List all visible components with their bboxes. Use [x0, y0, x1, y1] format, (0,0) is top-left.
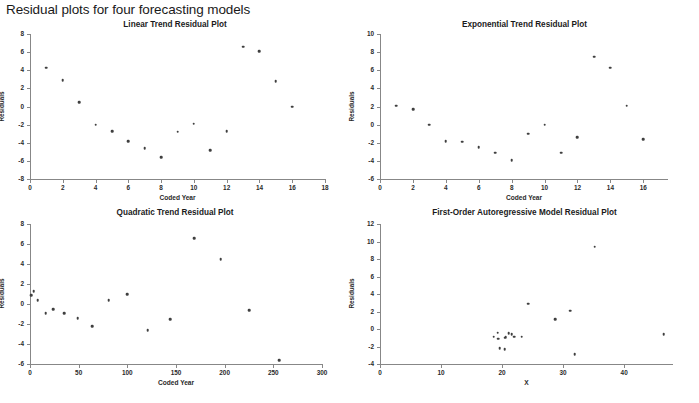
data-point [45, 66, 48, 69]
x-tick-quadratic-trend [225, 364, 226, 368]
data-point [497, 331, 500, 334]
y-tick-exponential-trend [377, 161, 381, 162]
data-point [94, 123, 97, 126]
data-point [143, 147, 146, 150]
data-point [520, 336, 523, 339]
y-tick-autoregressive [377, 242, 381, 243]
y-axis-line-autoregressive [380, 224, 381, 364]
x-tick-autoregressive [624, 364, 625, 368]
data-point [78, 101, 81, 104]
y-tick-linear-trend [27, 88, 31, 89]
x-tick-label-quadratic-trend: 50 [67, 369, 91, 376]
data-point [503, 348, 506, 351]
x-tick-label-autoregressive: 20 [490, 369, 514, 376]
x-axis-line-exponential-trend [380, 179, 668, 180]
x-tick-label-linear-trend: 18 [313, 184, 337, 191]
x-tick-exponential-trend [610, 179, 611, 183]
y-tick-autoregressive [377, 259, 381, 260]
data-point [91, 325, 94, 328]
x-tick-label-linear-trend: 8 [149, 184, 173, 191]
data-point [258, 50, 261, 53]
x-tick-quadratic-trend [273, 364, 274, 368]
x-tick-label-quadratic-trend: 0 [18, 369, 42, 376]
x-axis-line-autoregressive [380, 364, 673, 365]
y-tick-linear-trend [27, 143, 31, 144]
data-point [573, 353, 576, 356]
x-tick-linear-trend [128, 179, 129, 183]
data-point [663, 333, 666, 336]
x-tick-label-exponential-trend: 10 [533, 184, 557, 191]
x-tick-quadratic-trend [176, 364, 177, 368]
data-point [242, 45, 245, 48]
scatter-plot-quadratic-trend: 050100150200250300-6-4-202468Coded YearR… [30, 224, 322, 364]
y-tick-label-linear-trend: 8 [6, 30, 24, 37]
x-tick-autoregressive [441, 364, 442, 368]
x-tick-exponential-trend [380, 179, 381, 183]
data-point [126, 293, 129, 296]
x-tick-exponential-trend [643, 179, 644, 183]
y-tick-autoregressive [377, 277, 381, 278]
x-tick-exponential-trend [446, 179, 447, 183]
data-point [477, 146, 480, 149]
y-tick-quadratic-trend [27, 364, 31, 365]
y-tick-label-linear-trend: 6 [6, 48, 24, 55]
data-point [76, 317, 79, 320]
data-point [527, 132, 530, 135]
data-point [176, 131, 179, 134]
data-point [169, 318, 172, 321]
y-tick-label-quadratic-trend: 0 [6, 300, 24, 307]
y-tick-label-autoregressive: 0 [356, 325, 374, 332]
data-point [127, 140, 130, 143]
data-point [543, 123, 546, 126]
data-point [494, 151, 497, 154]
x-tick-quadratic-trend [127, 364, 128, 368]
y-tick-label-linear-trend: 4 [6, 66, 24, 73]
y-tick-quadratic-trend [27, 224, 31, 225]
y-tick-linear-trend [27, 107, 31, 108]
y-tick-label-exponential-trend: 8 [356, 48, 374, 55]
y-tick-label-exponential-trend: -2 [356, 139, 374, 146]
data-point [642, 138, 645, 141]
data-point [609, 66, 612, 69]
data-point [513, 336, 516, 339]
y-axis-label-quadratic-trend: Residuals [0, 264, 5, 324]
y-tick-linear-trend [27, 179, 31, 180]
x-tick-label-linear-trend: 14 [247, 184, 271, 191]
y-tick-exponential-trend [377, 88, 381, 89]
x-tick-linear-trend [259, 179, 260, 183]
y-tick-label-linear-trend: -8 [6, 175, 24, 182]
y-axis-label-autoregressive: Residuals [348, 264, 355, 324]
data-point [146, 329, 149, 332]
y-tick-label-quadratic-trend: -6 [6, 360, 24, 367]
y-tick-label-quadratic-trend: 8 [6, 220, 24, 227]
x-tick-autoregressive [502, 364, 503, 368]
y-tick-linear-trend [27, 70, 31, 71]
x-tick-label-quadratic-trend: 300 [310, 369, 334, 376]
y-tick-label-autoregressive: 8 [356, 255, 374, 262]
data-point [275, 80, 278, 83]
page-title: Residual plots for four forecasting mode… [6, 2, 250, 17]
data-point [225, 130, 228, 133]
data-point [498, 347, 501, 350]
y-tick-exponential-trend [377, 143, 381, 144]
y-tick-label-linear-trend: 0 [6, 103, 24, 110]
y-tick-linear-trend [27, 125, 31, 126]
data-point [428, 123, 431, 126]
data-point [111, 130, 114, 133]
x-tick-exponential-trend [512, 179, 513, 183]
panel-title-linear-trend: Linear Trend Residual Plot [0, 20, 350, 29]
y-tick-label-exponential-trend: 0 [356, 121, 374, 128]
y-axis-label-linear-trend: Residuals [0, 76, 5, 136]
x-tick-label-exponential-trend: 12 [565, 184, 589, 191]
y-tick-label-autoregressive: 4 [356, 290, 374, 297]
data-point [219, 258, 222, 261]
x-tick-label-linear-trend: 12 [215, 184, 239, 191]
x-tick-label-quadratic-trend: 150 [164, 369, 188, 376]
x-tick-linear-trend [227, 179, 228, 183]
data-point [560, 151, 563, 154]
panel-title-exponential-trend: Exponential Trend Residual Plot [350, 20, 699, 29]
x-tick-linear-trend [30, 179, 31, 183]
y-tick-exponential-trend [377, 52, 381, 53]
x-tick-label-exponential-trend: 0 [368, 184, 392, 191]
x-tick-linear-trend [325, 179, 326, 183]
